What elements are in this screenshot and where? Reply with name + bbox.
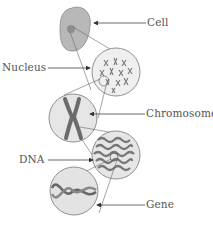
- cell-label: Cell: [147, 16, 168, 28]
- nucleus-illustration: [92, 48, 140, 96]
- dna-label: DNA: [19, 153, 45, 165]
- gene-illustration: [50, 167, 98, 215]
- chromosome-label: Chromosome: [146, 107, 213, 119]
- cell-illustration: [60, 7, 90, 51]
- dna-illustration: [92, 131, 140, 179]
- chromosome-illustration: [49, 94, 97, 142]
- nucleus-label: Nucleus: [2, 61, 46, 73]
- gene-label: Gene: [146, 198, 174, 210]
